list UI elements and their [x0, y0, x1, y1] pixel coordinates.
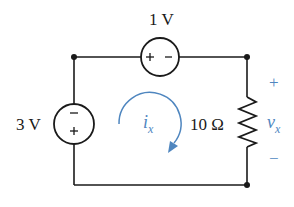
voltage-label: vx	[267, 113, 280, 135]
node-top-right	[244, 54, 250, 60]
top-source-label: 1 V	[149, 11, 174, 28]
current-subscript: x	[148, 122, 153, 136]
resistor-label: 10 Ω	[190, 116, 224, 133]
voltage-symbol: v	[267, 112, 275, 132]
voltage-source-left	[54, 104, 94, 144]
node-top-left	[71, 54, 77, 60]
voltage-plus: +	[269, 74, 279, 91]
current-label: ix	[143, 113, 153, 135]
voltage-source-top	[141, 38, 179, 76]
resistor-icon	[239, 97, 256, 147]
circuit-diagram	[0, 0, 294, 207]
voltage-minus: −	[269, 150, 279, 167]
left-source-label: 3 V	[16, 116, 41, 133]
node-bottom-right	[244, 182, 250, 188]
voltage-subscript: x	[275, 122, 280, 136]
